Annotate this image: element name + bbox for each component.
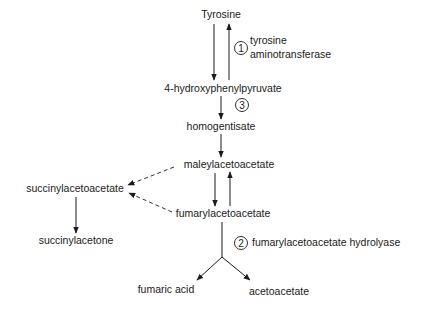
enzyme-3-number: 3 [239, 100, 245, 111]
enzyme-2-number: 2 [238, 238, 244, 249]
node-succinylacetone: succinylacetone [39, 234, 114, 246]
node-maleylacetoacetate: maleylacetoacetate [184, 158, 275, 170]
node-fumaric-acid: fumaric acid [138, 283, 195, 295]
node-homogentisate: homogentisate [187, 120, 256, 132]
arrow-to-fumaric-acid [197, 257, 222, 280]
node-tyrosine: Tyrosine [201, 8, 241, 20]
node-4-hydroxyphenylpyruvate: 4-hydroxyphenylpyruvate [164, 82, 281, 94]
dashed-arrow-maleyl-to-succinylacetoacetate [128, 167, 174, 185]
arrow-to-acetoacetate [222, 257, 250, 280]
tyrosine-pathway-diagram: Tyrosine 4-hydroxyphenylpyruvate homogen… [0, 0, 431, 314]
enzyme-2-label: fumarylacetoacetate hydrolyase [252, 236, 400, 248]
enzyme-1-label-line2: aminotransferase [250, 48, 331, 60]
dashed-arrow-fumaryl-to-succinylacetoacetate [129, 193, 172, 212]
node-succinylacetoacetate: succinylacetoacetate [26, 182, 124, 194]
node-acetoacetate: acetoacetate [249, 285, 309, 297]
enzyme-1-label-line1: tyrosine [250, 34, 287, 46]
node-fumarylacetoacetate: fumarylacetoacetate [176, 207, 271, 219]
enzyme-1-number: 1 [238, 43, 244, 54]
